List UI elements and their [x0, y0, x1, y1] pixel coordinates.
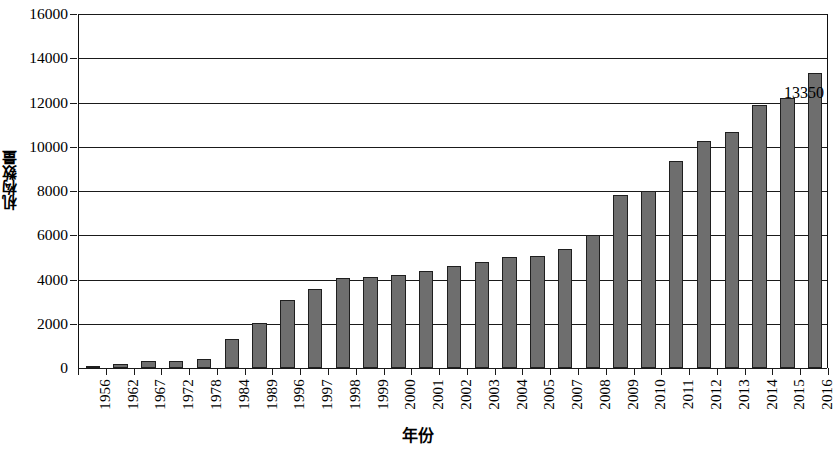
x-tick-label-2011: 2011: [681, 379, 696, 409]
x-tick-label-2007: 2007: [570, 379, 585, 410]
gridline: [79, 368, 827, 369]
x-tickmark: [272, 368, 273, 375]
x-tick-label-2002: 2002: [459, 379, 474, 410]
x-tick-label-2016: 2016: [820, 379, 835, 410]
x-tick-label-1989: 1989: [265, 379, 280, 410]
bar-1956: [86, 366, 100, 368]
y-tick-label-0: 0: [6, 361, 68, 375]
bar-1989: [252, 323, 266, 368]
x-tickmark: [606, 368, 607, 375]
bar-2008: [586, 235, 600, 368]
x-tick-label-1998: 1998: [348, 379, 363, 410]
x-tick-label-2003: 2003: [487, 379, 502, 410]
bar-2011: [669, 161, 683, 368]
x-tick-label-2014: 2014: [765, 379, 780, 410]
x-tickmark: [634, 368, 635, 375]
y-tickmark: [70, 191, 77, 192]
bar-1972: [169, 361, 183, 368]
x-tickmark: [522, 368, 523, 375]
x-tickmark: [550, 368, 551, 375]
y-tickmark: [70, 324, 77, 325]
bar-2001: [419, 271, 433, 368]
x-tick-label-2000: 2000: [403, 379, 418, 410]
bar-2002: [447, 266, 461, 368]
x-tickmark: [217, 368, 218, 375]
bar-2000: [391, 275, 405, 368]
x-tick-label-2012: 2012: [709, 379, 724, 410]
bar-2009: [613, 195, 627, 368]
bar-1999: [363, 277, 377, 368]
bar-2007: [558, 249, 572, 368]
plot-area: [78, 14, 828, 368]
bar-2015: [780, 98, 794, 368]
bar-1997: [308, 289, 322, 368]
bar-1967: [141, 361, 155, 368]
x-tick-label-2013: 2013: [737, 379, 752, 410]
bar-chart: 机构数量 02000400060008000100001200014000160…: [0, 0, 836, 450]
x-tickmark: [495, 368, 496, 375]
y-tick-label-12000: 12000: [6, 96, 68, 110]
x-tick-label-1972: 1972: [181, 379, 196, 410]
bar-2013: [725, 132, 739, 368]
y-tickmark: [70, 14, 77, 15]
bar-1996: [280, 300, 294, 368]
y-tickmark: [70, 103, 77, 104]
x-tickmark: [328, 368, 329, 375]
bar-2004: [502, 257, 516, 368]
x-tickmark: [411, 368, 412, 375]
bar-2016: [808, 73, 822, 368]
x-tickmark: [300, 368, 301, 375]
bar-2010: [641, 191, 655, 368]
bar-2012: [697, 141, 711, 368]
x-tickmark: [439, 368, 440, 375]
x-tickmark: [689, 368, 690, 375]
x-tickmark: [78, 368, 79, 375]
y-tick-label-6000: 6000: [6, 228, 68, 242]
x-tickmark: [828, 368, 829, 375]
x-tick-label-1999: 1999: [376, 379, 391, 410]
y-tick-label-16000: 16000: [6, 7, 68, 21]
x-tickmark: [106, 368, 107, 375]
x-tick-label-1956: 1956: [98, 379, 113, 410]
x-tickmark: [189, 368, 190, 375]
y-tick-label-2000: 2000: [6, 317, 68, 331]
x-axis-title: 年份: [0, 422, 836, 446]
y-tickmark: [70, 235, 77, 236]
x-tick-label-2015: 2015: [792, 379, 807, 410]
x-tickmark: [717, 368, 718, 375]
bar-2014: [752, 105, 766, 368]
bar-1998: [336, 278, 350, 368]
bar-1978: [197, 359, 211, 368]
y-tickmark: [70, 147, 77, 148]
x-tickmark: [578, 368, 579, 375]
x-tickmark: [161, 368, 162, 375]
y-tick-label-14000: 14000: [6, 51, 68, 65]
bar-2003: [475, 262, 489, 368]
x-tick-label-2004: 2004: [515, 379, 530, 410]
y-tick-label-10000: 10000: [6, 140, 68, 154]
x-tickmark: [467, 368, 468, 375]
x-tick-label-2010: 2010: [653, 379, 668, 410]
x-tickmark: [745, 368, 746, 375]
x-tick-label-1978: 1978: [209, 379, 224, 410]
x-tick-label-1997: 1997: [320, 379, 335, 410]
x-tick-label-2009: 2009: [626, 379, 641, 410]
x-tickmark: [356, 368, 357, 375]
bars-group: [79, 14, 827, 368]
bar-2005: [530, 256, 544, 368]
x-tick-label-2001: 2001: [431, 379, 446, 410]
y-tick-label-4000: 4000: [6, 273, 68, 287]
bar-1984: [225, 339, 239, 368]
x-tick-label-1984: 1984: [237, 379, 252, 410]
y-axis-title: 机构数量: [2, 150, 24, 210]
y-tickmark: [70, 58, 77, 59]
y-tick-label-8000: 8000: [6, 184, 68, 198]
y-tickmark: [70, 280, 77, 281]
data-label-2016: 13350: [784, 85, 824, 101]
x-tick-label-2008: 2008: [598, 379, 613, 410]
x-tickmark: [384, 368, 385, 375]
x-tickmark: [661, 368, 662, 375]
x-tickmark: [772, 368, 773, 375]
bar-1962: [113, 364, 127, 368]
x-tickmark: [245, 368, 246, 375]
